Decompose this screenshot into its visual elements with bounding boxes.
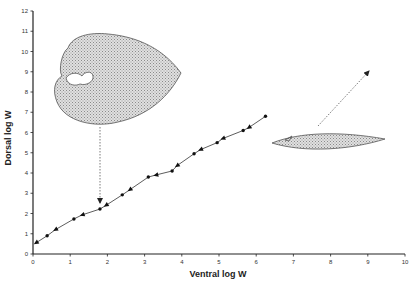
x-tick-label: 6	[255, 259, 259, 265]
x-tick-label: 9	[366, 259, 370, 265]
y-tick-label: 1	[25, 231, 29, 237]
y-tick-label: 3	[25, 190, 29, 196]
x-tick-label: 0	[31, 259, 35, 265]
x-tick-label: 2	[106, 259, 110, 265]
y-tick-label: 10	[21, 49, 28, 55]
y-tick-label: 8	[25, 89, 29, 95]
y-tick-label: 4	[25, 170, 29, 176]
x-axis-title: Ventral log W	[189, 269, 247, 279]
y-axis-title: Dorsal log W	[3, 110, 13, 166]
data-point-arrowhead	[220, 136, 226, 142]
y-tick-label: 6	[25, 130, 29, 136]
y-tick-label: 5	[25, 150, 29, 156]
y-tick-label: 12	[21, 8, 28, 14]
y-tick-label: 0	[25, 251, 29, 257]
data-point-arrowhead	[33, 240, 40, 247]
data-point-dot	[98, 207, 101, 210]
y-tick-label: 9	[25, 69, 29, 75]
x-tick-label: 1	[69, 259, 73, 265]
data-point-dot	[72, 217, 75, 220]
x-tick-label: 8	[329, 259, 333, 265]
data-point-arrowhead	[245, 124, 252, 131]
data-point-dot	[170, 169, 173, 172]
flat-shell-dashed-arrow	[318, 71, 369, 126]
data-point-dot	[121, 193, 124, 196]
y-tick-label: 7	[25, 109, 29, 115]
data-point-dot	[264, 115, 267, 118]
y-tick-label: 11	[22, 28, 29, 34]
chart: 0123456789100123456789101112 Ventral log…	[0, 0, 413, 284]
x-tick-label: 4	[180, 259, 184, 265]
x-tick-label: 5	[217, 259, 221, 265]
data-point-dot	[192, 152, 195, 155]
y-tick-label: 2	[25, 211, 29, 217]
x-tick-label: 10	[402, 259, 409, 265]
data-point-arrowhead	[79, 212, 85, 218]
coiled-shell-illustration	[55, 34, 181, 125]
x-tick-label: 7	[292, 259, 296, 265]
data-point-dot	[45, 234, 48, 237]
data-point-dot	[147, 175, 150, 178]
data-point-arrowhead	[52, 226, 59, 232]
data-point-dot	[241, 129, 244, 132]
data-point-arrowhead	[197, 147, 203, 153]
data-point-arrowhead	[126, 186, 133, 193]
data-point-dot	[215, 141, 218, 144]
data-point-arrowhead	[153, 172, 159, 178]
series-line	[36, 116, 266, 243]
data-point-arrowhead	[103, 202, 110, 209]
flat-shell-illustration	[272, 134, 385, 149]
data-series	[33, 115, 268, 247]
x-tick-label: 3	[143, 259, 147, 265]
